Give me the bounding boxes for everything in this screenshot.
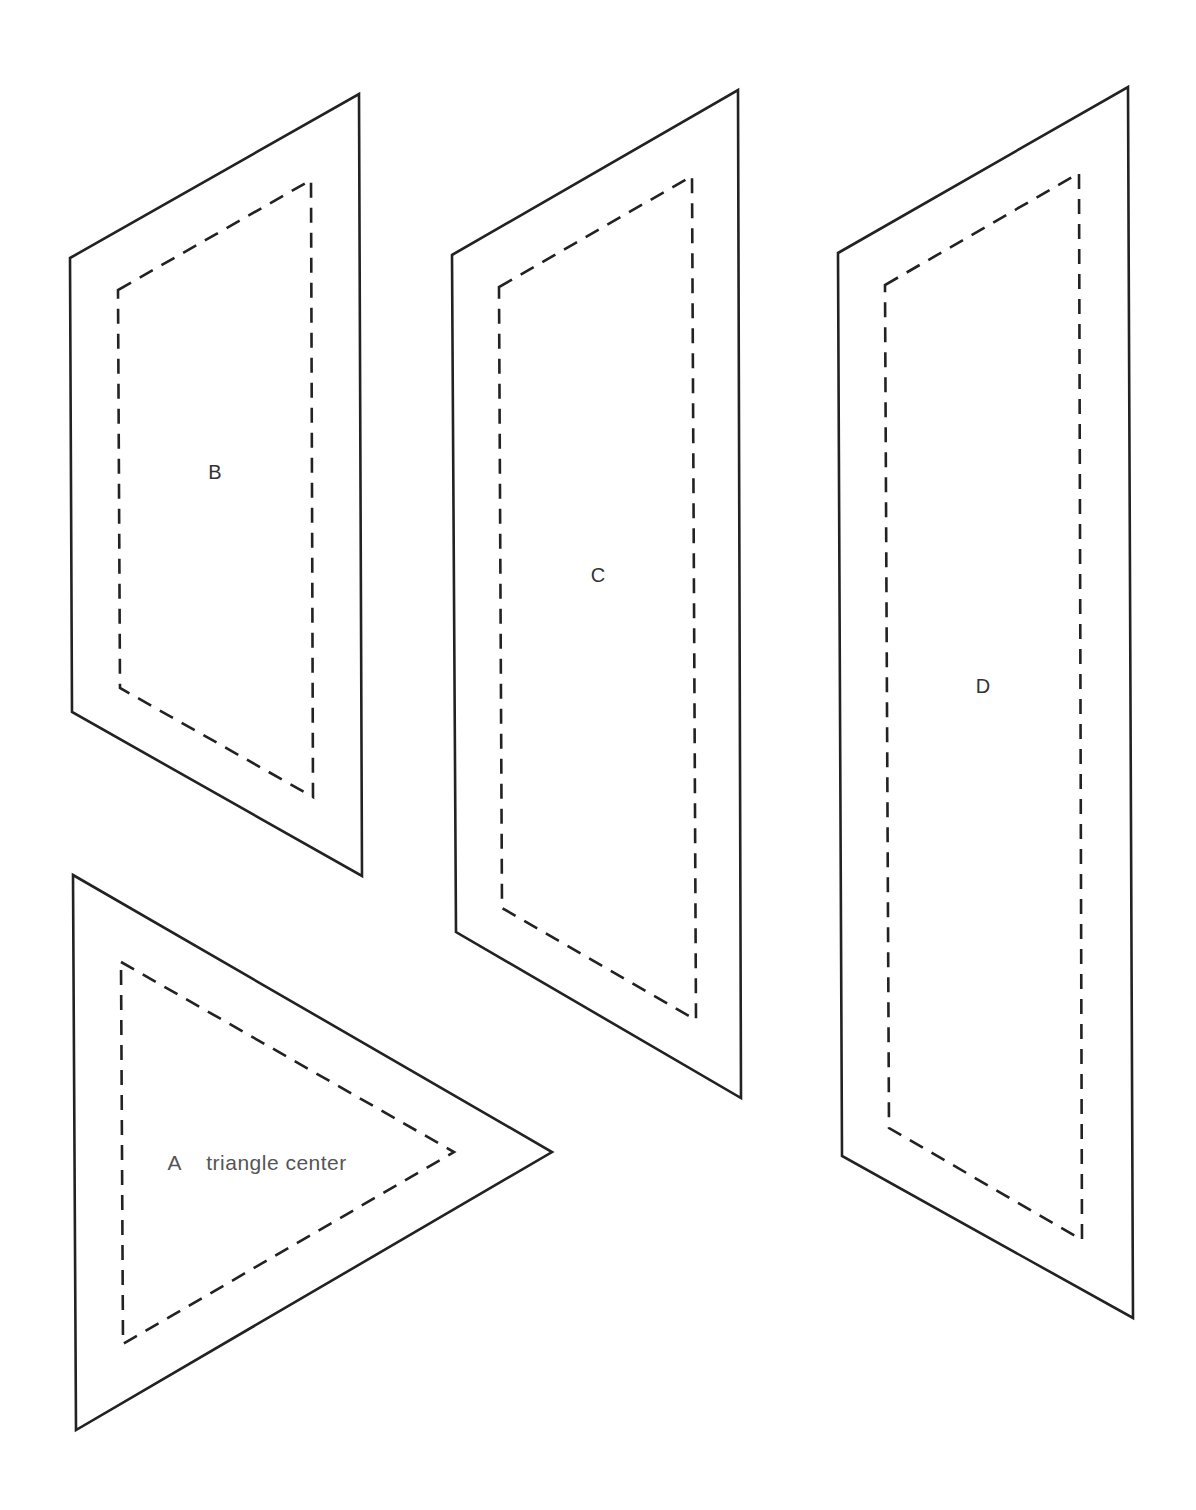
shape-a-label-group: A triangle center [156,1133,347,1173]
shape-c-label: C [591,565,605,585]
shape-c-seam-line [499,176,696,1020]
shape-a-label: A [168,1151,181,1174]
shape-d-cut-line [838,87,1133,1318]
shape-c-cut-line [452,90,741,1098]
shape-b-cut-line [70,94,362,876]
shape-d-seam-line [885,173,1082,1240]
label-spacer [181,1151,206,1174]
template-diagram [0,0,1196,1510]
shape-c-parallelogram [452,90,741,1098]
shape-b-seam-line [118,180,313,797]
shape-a-annotation: triangle center [206,1151,347,1174]
shape-d-parallelogram [838,87,1133,1318]
shape-b-parallelogram [70,94,362,876]
shape-d-label: D [976,676,990,696]
shape-b-label: B [208,462,221,482]
